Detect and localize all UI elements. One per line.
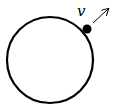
diagram-canvas: v	[0, 0, 114, 109]
velocity-label: v	[77, 2, 86, 20]
circle	[7, 17, 93, 103]
point-dot	[83, 25, 92, 34]
arrow-icon	[93, 9, 108, 23]
